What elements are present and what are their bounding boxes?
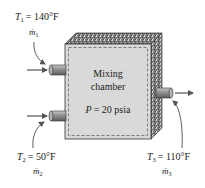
- chamber-title-line1: Mixing: [93, 68, 122, 79]
- inlet-2-temperature: T2= 50°F: [17, 151, 56, 163]
- mixing-chamber-diagram: Mixing chamber P= 20 psia T1= 140°F ṁ1 T…: [0, 0, 205, 188]
- inlet-1-leader-arrow: [34, 42, 45, 64]
- mass-flow-subscript: 1: [36, 32, 39, 38]
- inlet-1-temperature: T1= 140°F: [15, 11, 59, 23]
- temp-subscript: 1: [21, 16, 24, 23]
- mass-flow-subscript: 3: [169, 171, 172, 177]
- chamber-top-face: [65, 33, 162, 44]
- chamber-pressure: P= 20 psia: [85, 104, 131, 115]
- mass-flow-subscript: 2: [40, 171, 43, 177]
- outlet-temperature: T3= 110°F: [147, 151, 191, 163]
- temp-value: = 140°F: [26, 11, 59, 22]
- outlet-mass-flow: ṁ3: [162, 166, 172, 177]
- inlet-pipe-2: [49, 111, 66, 121]
- inlet-1-mass-flow: ṁ1: [29, 27, 39, 38]
- inlet-2-mass-flow: ṁ2: [33, 166, 43, 177]
- chamber-side-face: [151, 33, 162, 139]
- inlet-2-leader-arrow: [33, 122, 44, 148]
- outlet-leader-arrow: [173, 101, 182, 148]
- temp-subscript: 2: [23, 156, 26, 163]
- pressure-symbol: P: [85, 104, 92, 115]
- temp-subscript: 3: [153, 156, 156, 163]
- chamber-title-line2: chamber: [91, 81, 126, 92]
- inlet-pipe-1: [49, 65, 66, 75]
- outlet-pipe-3: [156, 88, 173, 98]
- temp-value: = 110°F: [158, 151, 191, 162]
- temp-value: = 50°F: [28, 151, 56, 162]
- pressure-value: = 20 psia: [94, 104, 131, 115]
